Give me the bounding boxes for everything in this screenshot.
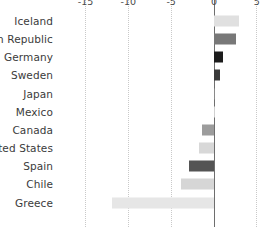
bar-row: Iceland bbox=[0, 12, 266, 30]
bar-canada bbox=[202, 124, 214, 135]
plot-area: -15-10-505 IcelandCzech RepublicGermanyS… bbox=[0, 0, 266, 227]
category-label-japan: Japan bbox=[23, 88, 53, 100]
bar-chart: -15-10-505 IcelandCzech RepublicGermanyS… bbox=[0, 0, 266, 227]
bar-row: Chile bbox=[0, 175, 266, 193]
category-label-spain: Spain bbox=[23, 160, 53, 172]
bar-sweden bbox=[214, 70, 220, 81]
category-label-sweden: Sweden bbox=[11, 69, 53, 81]
x-tick-label-0: -15 bbox=[78, 0, 94, 7]
bar-spain bbox=[189, 161, 214, 172]
bar-japan bbox=[214, 88, 215, 99]
bar-greece bbox=[112, 197, 214, 208]
x-tick-label-3: 0 bbox=[211, 0, 217, 7]
category-label-canada: Canada bbox=[12, 124, 53, 136]
bar-row: Greece bbox=[0, 194, 266, 212]
category-label-germany: Germany bbox=[4, 51, 53, 63]
bar-row: Czech Republic bbox=[0, 30, 266, 48]
bar-mexico bbox=[214, 106, 215, 117]
category-label-greece: Greece bbox=[15, 197, 53, 209]
bar-iceland bbox=[214, 16, 239, 27]
x-tick-label-4: 5 bbox=[254, 0, 260, 7]
x-tick-label-1: -10 bbox=[121, 0, 137, 7]
category-label-mexico: Mexico bbox=[16, 106, 53, 118]
bar-united-states bbox=[199, 143, 214, 154]
bar-row: Sweden bbox=[0, 66, 266, 84]
bar-chile bbox=[181, 179, 214, 190]
category-label-united-states: United States bbox=[0, 142, 53, 154]
bar-germany bbox=[214, 52, 223, 63]
bar-row: Spain bbox=[0, 157, 266, 175]
bar-row: Germany bbox=[0, 48, 266, 66]
category-label-chile: Chile bbox=[26, 178, 53, 190]
bar-row: Japan bbox=[0, 85, 266, 103]
bar-row: Canada bbox=[0, 121, 266, 139]
x-tick-label-2: -5 bbox=[166, 0, 175, 7]
bar-row: United States bbox=[0, 139, 266, 157]
category-label-iceland: Iceland bbox=[14, 15, 53, 27]
category-label-czech-republic: Czech Republic bbox=[0, 33, 53, 45]
bar-czech-republic bbox=[214, 34, 236, 45]
bar-row: Mexico bbox=[0, 103, 266, 121]
